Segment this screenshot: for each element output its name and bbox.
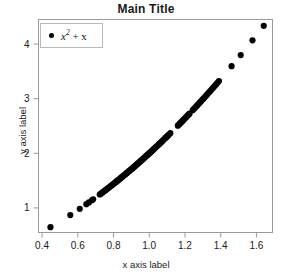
data-point	[90, 196, 96, 202]
y-tick-label: 4	[24, 39, 30, 50]
plot-frame-rect	[39, 20, 273, 233]
data-point	[228, 63, 234, 69]
data-point	[238, 52, 244, 58]
y-axis-label: y axis label	[17, 71, 28, 191]
x-tick-label: 0.8	[107, 240, 121, 251]
x-tick-label: 0.4	[35, 240, 49, 251]
data-point	[67, 212, 73, 218]
plot-frame	[39, 20, 273, 233]
y-tick-label: 1	[24, 202, 30, 213]
x-axis-label: x axis label	[0, 259, 292, 270]
legend-label: x2 + x	[61, 28, 87, 42]
x-tick-label: 0.6	[71, 240, 85, 251]
data-point	[47, 224, 53, 230]
data-point	[167, 130, 173, 136]
data-point	[261, 23, 267, 29]
legend-marker-icon	[49, 33, 54, 38]
x-tick-label: 1.0	[142, 240, 156, 251]
x-tick-label: 1.6	[249, 240, 263, 251]
data-point-group	[47, 23, 266, 231]
data-point	[249, 37, 255, 43]
chart-figure: Main Title 0.40.60.81.01.21.41.6 1234 x2…	[0, 0, 292, 280]
x-tick-label: 1.4	[214, 240, 228, 251]
legend: x2 + x	[40, 23, 103, 48]
x-axis-ticks: 0.40.60.81.01.21.41.6	[35, 233, 264, 251]
data-point	[77, 206, 83, 212]
x-tick-label: 1.2	[178, 240, 192, 251]
data-point	[216, 78, 222, 84]
